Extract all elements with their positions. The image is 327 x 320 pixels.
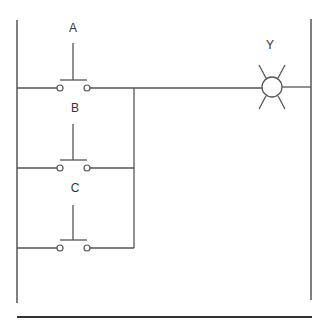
- label-y: Y: [266, 38, 274, 52]
- pushbutton-c: C: [17, 181, 134, 251]
- pushbutton-a: A: [17, 21, 262, 91]
- label-a: A: [69, 21, 77, 35]
- ladder-diagram: A B C Y: [0, 0, 327, 320]
- label-c: C: [71, 181, 80, 195]
- pushbutton-b: B: [17, 101, 134, 171]
- lamp-icon: [262, 77, 282, 97]
- lamp-y: Y: [259, 38, 311, 109]
- label-b: B: [71, 101, 79, 115]
